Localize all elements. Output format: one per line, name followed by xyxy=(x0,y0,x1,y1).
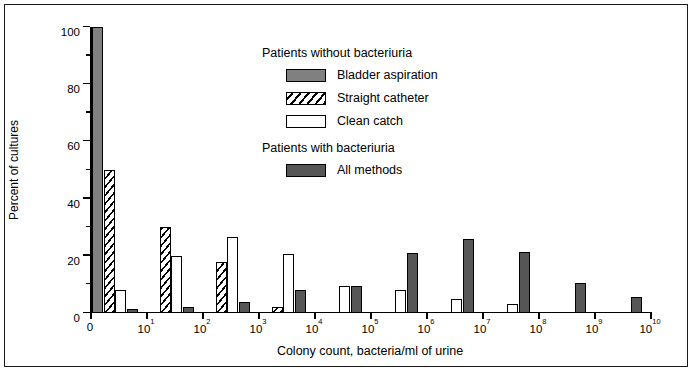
x-tick-label: 105 xyxy=(362,322,379,335)
bar xyxy=(227,237,238,313)
y-tick-major xyxy=(83,140,90,142)
legend-swatch-icon xyxy=(286,92,326,105)
x-tick-label: 104 xyxy=(306,322,323,335)
bar xyxy=(507,304,518,313)
legend-item-label: Straight catheter xyxy=(337,92,429,105)
x-tick-label: 106 xyxy=(418,322,435,335)
bar xyxy=(519,252,530,313)
x-tick xyxy=(426,313,428,319)
x-tick-label: 102 xyxy=(194,322,211,335)
x-tick xyxy=(594,313,596,319)
y-tick-major xyxy=(83,312,90,314)
y-axis-label: Percent of cultures xyxy=(7,120,21,220)
bar xyxy=(216,262,227,313)
legend-item-label: Clean catch xyxy=(337,115,403,128)
legend-group: Patients without bacteriuriaBladder aspi… xyxy=(262,47,502,131)
x-tick-label: 107 xyxy=(474,322,491,335)
legend-item[interactable]: Clean catch xyxy=(262,112,502,131)
figure-container: Percent of cultures Colony count, bacter… xyxy=(0,0,692,371)
x-tick xyxy=(258,313,260,319)
legend-swatch-icon xyxy=(286,164,326,177)
x-tick-label: 109 xyxy=(586,322,603,335)
bar xyxy=(295,290,306,313)
x-tick-label: 101 xyxy=(138,322,155,335)
legend-group-title: Patients with bacteriuria xyxy=(262,142,502,156)
bar xyxy=(451,299,462,313)
y-tick-minor xyxy=(86,226,90,228)
x-tick-label: 0 xyxy=(87,322,93,334)
y-tick-minor xyxy=(86,54,90,56)
bar xyxy=(171,256,182,313)
bar xyxy=(283,254,294,313)
y-tick-major xyxy=(83,197,90,199)
y-tick-minor xyxy=(86,111,90,113)
bar xyxy=(160,227,171,313)
legend: Patients without bacteriuriaBladder aspi… xyxy=(262,47,502,191)
y-tick-minor xyxy=(86,283,90,285)
x-tick-label: 103 xyxy=(250,322,267,335)
bar xyxy=(463,239,474,313)
x-tick xyxy=(314,313,316,319)
legend-group-title: Patients without bacteriuria xyxy=(262,47,502,61)
legend-swatch-icon xyxy=(286,69,326,82)
bar xyxy=(339,286,350,313)
legend-item-label: All methods xyxy=(337,164,402,177)
x-tick xyxy=(146,313,148,319)
bar xyxy=(115,290,126,313)
legend-swatch-icon xyxy=(286,115,326,128)
x-tick-label: 1010 xyxy=(639,322,660,335)
bar xyxy=(239,302,250,313)
bar xyxy=(127,309,138,313)
y-tick-major xyxy=(83,26,90,28)
bar xyxy=(272,307,283,313)
bar xyxy=(92,27,103,313)
legend-item[interactable]: Straight catheter xyxy=(262,89,502,108)
x-tick xyxy=(202,313,204,319)
y-tick-minor xyxy=(86,169,90,171)
x-tick xyxy=(90,313,92,319)
x-tick xyxy=(482,313,484,319)
y-tick-major xyxy=(83,254,90,256)
bar xyxy=(631,297,642,313)
legend-group: Patients with bacteriuriaAll methods xyxy=(262,142,502,180)
bar xyxy=(351,286,362,313)
x-tick xyxy=(650,313,652,319)
legend-item[interactable]: All methods xyxy=(262,161,502,180)
x-axis-label: Colony count, bacteria/ml of urine xyxy=(277,344,463,358)
legend-item-label: Bladder aspiration xyxy=(337,69,438,82)
bar xyxy=(183,307,194,313)
x-tick-label: 108 xyxy=(530,322,547,335)
legend-item[interactable]: Bladder aspiration xyxy=(262,66,502,85)
y-tick-major xyxy=(83,83,90,85)
bar xyxy=(104,170,115,313)
x-tick xyxy=(538,313,540,319)
bar xyxy=(395,290,406,313)
bar xyxy=(575,283,586,313)
x-tick xyxy=(370,313,372,319)
bar xyxy=(407,253,418,313)
